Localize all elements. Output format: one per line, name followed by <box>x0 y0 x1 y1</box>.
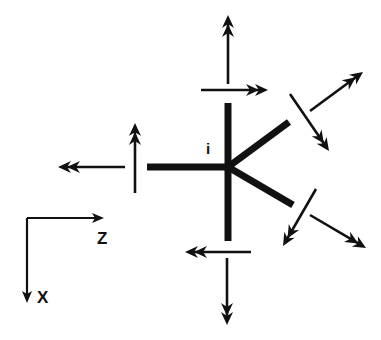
center-joint <box>224 163 233 172</box>
bottom-horizontal-arrow <box>185 246 251 258</box>
bonds <box>147 103 293 241</box>
top-horizontal-arrow <box>201 84 268 96</box>
bottom-vertical-arrow <box>221 258 233 325</box>
bond-upper-right <box>228 122 289 167</box>
top-vertical-arrow <box>222 15 234 84</box>
left-horizontal-arrow <box>58 161 125 173</box>
lower-right-outward-arrow <box>310 215 366 248</box>
center-atom-label: i <box>206 140 210 157</box>
upper-right-outward-arrow <box>310 72 363 111</box>
diagram-canvas: Z X i <box>0 0 381 340</box>
x-axis-label: X <box>37 288 49 307</box>
z-axis-label: Z <box>97 229 107 248</box>
left-vertical-arrow <box>129 123 141 193</box>
coordinate-axes: Z X <box>22 213 107 307</box>
lower-right-transverse-arrow <box>283 189 316 246</box>
bond-lower-right <box>228 167 293 205</box>
